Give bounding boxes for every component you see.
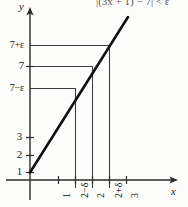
x-label-2-plus-delta-main: 2: [113, 193, 124, 198]
x-label-3: 3: [130, 193, 140, 198]
x-label-2-plus-delta: 2+δ: [113, 183, 124, 198]
x-label-2-plus-delta-op: +: [113, 187, 124, 193]
figure-canvas: [0, 0, 188, 207]
x-label-2-minus-delta-sub: δ: [79, 183, 90, 188]
y-label-1: 1: [0, 166, 22, 177]
x-label-2-minus-delta-main: 2: [79, 193, 90, 198]
y-label-7-minus-eps: 7−ε: [0, 83, 24, 93]
y-label-3: 3: [0, 131, 22, 142]
function-line: [30, 17, 128, 173]
x-label-2-minus-delta-op: −: [79, 187, 90, 193]
y-label-7-plus-eps: 7+ε: [0, 40, 24, 50]
x-label-2-minus-delta: 2−δ: [79, 183, 90, 198]
top-formula-clip: |(3x + 1) − 7| < ε: [0, 0, 188, 7]
y-label-7: 7: [0, 60, 24, 71]
top-formula: |(3x + 1) − 7| < ε: [96, 0, 169, 7]
x-label-2: 2: [96, 193, 106, 198]
epsilon-delta-limit-figure: |(3x + 1) − 7| < ε 7+ε 7 7−ε 3 2 1 1 2−δ…: [0, 0, 188, 207]
x-label-1: 1: [62, 193, 72, 198]
x-label-2-plus-delta-sub: δ: [113, 183, 124, 188]
y-label-2: 2: [0, 149, 22, 160]
x-axis-name: x: [171, 186, 176, 197]
y-axis-name: y: [19, 1, 24, 12]
